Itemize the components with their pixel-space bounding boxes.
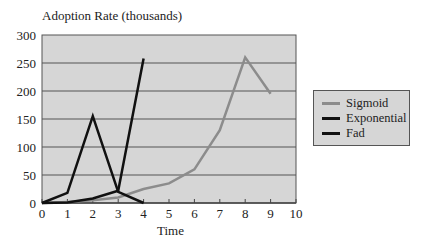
legend-label: Sigmoid: [346, 96, 388, 111]
legend-label: Exponential: [346, 111, 406, 126]
x-tick-label: 3: [115, 206, 122, 221]
x-tick-label: 4: [140, 206, 147, 221]
x-tick-label: 5: [166, 206, 173, 221]
y-tick-label: 300: [17, 28, 37, 43]
x-tick-label: 9: [267, 206, 274, 221]
x-tick-label: 7: [217, 206, 224, 221]
x-tick-label: 2: [90, 206, 97, 221]
legend-item-exponential: Exponential: [322, 111, 406, 126]
y-tick-label: 200: [17, 84, 37, 99]
x-tick-label: 10: [290, 206, 303, 221]
chart-title: Adoption Rate (thousands): [42, 8, 182, 24]
x-tick-label: 1: [64, 206, 71, 221]
y-tick-label: 0: [30, 196, 37, 211]
y-tick-label: 150: [17, 112, 37, 127]
y-tick-label: 100: [17, 140, 37, 155]
x-tick-label: 8: [242, 206, 249, 221]
y-tick-label: 250: [17, 56, 37, 71]
x-tick-label: 0: [39, 206, 46, 221]
y-axis-ticks: 050100150200250300: [17, 28, 37, 211]
legend: Sigmoid Exponential Fad: [313, 90, 410, 146]
legend-item-fad: Fad: [322, 126, 365, 141]
legend-label: Fad: [346, 126, 365, 141]
legend-item-sigmoid: Sigmoid: [322, 96, 388, 111]
legend-swatch-sigmoid: [322, 102, 340, 105]
legend-swatch-fad: [322, 132, 340, 135]
x-axis-label: Time: [157, 223, 184, 239]
y-tick-label: 50: [23, 168, 36, 183]
legend-swatch-exponential: [322, 117, 340, 120]
x-tick-label: 6: [191, 206, 198, 221]
